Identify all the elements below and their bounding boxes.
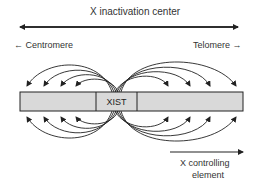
chromosome-bar: [20, 92, 243, 111]
arcs-left-lower: [27, 111, 118, 138]
arcs-left-upper: [27, 65, 118, 92]
arcs-right-upper: [115, 62, 236, 92]
arcs-right-lower: [115, 111, 236, 141]
diagram-graphics: XIST: [0, 0, 260, 186]
xist-label: XIST: [106, 97, 127, 107]
